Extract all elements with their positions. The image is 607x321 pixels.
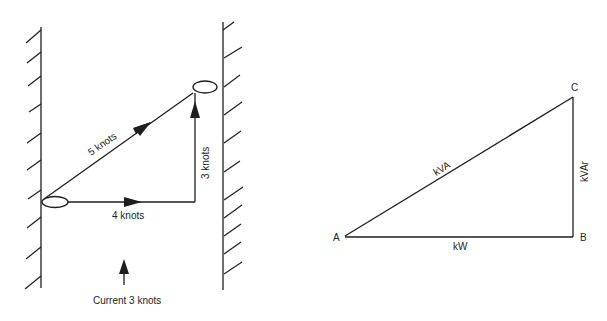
kvar-label: kVAr [579,160,590,182]
boat-end-icon [193,81,217,93]
vertex-b-label: B [580,232,587,243]
right-riverbank [223,22,243,290]
resultant-label: 5 knots [86,130,119,158]
vertex-a-label: A [333,232,340,243]
resultant-vector [44,93,193,199]
river-crossing-diagram: 5 knots 4 knots 3 knots Current 3 knots [25,22,243,306]
kw-label: kW [453,241,468,252]
power-triangle-diagram: A B C kVA kW kVAr [333,82,590,252]
current-arrowhead-icon [119,259,129,274]
left-riverbank [25,27,41,289]
kva-side [345,97,573,236]
kva-label: kVA [431,159,452,178]
boat-arrowhead-icon [124,197,142,207]
boat-vector [68,197,195,207]
current-indicator [119,259,129,285]
current-component-label: 3 knots [200,147,211,179]
diagram-canvas: 5 knots 4 knots 3 knots Current 3 knots … [0,0,607,321]
boat-speed-label: 4 knots [112,210,144,221]
current-component-arrowhead-icon [190,101,200,118]
current-label: Current 3 knots [93,295,161,306]
current-component-vector [190,93,200,202]
vertex-c-label: C [571,82,578,93]
